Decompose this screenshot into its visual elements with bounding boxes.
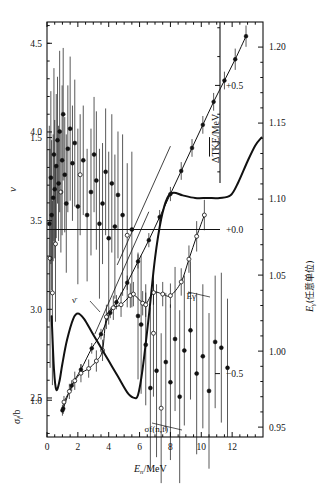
data-point — [113, 225, 117, 229]
data-point — [125, 281, 129, 285]
data-point — [53, 242, 57, 246]
eg-tick-label: 1.05 — [269, 271, 286, 281]
data-point — [151, 331, 155, 335]
data-point — [67, 389, 71, 393]
data-point — [76, 204, 80, 208]
e-gamma-bar-label-text: Ēγ — [187, 291, 196, 301]
data-point — [90, 346, 94, 350]
sigma-tick-label: 1.5 — [30, 133, 42, 143]
data-point — [219, 346, 223, 350]
left-lower-axis-title-tail: /b — [11, 409, 22, 417]
eg-tick-label: 0.95 — [269, 423, 286, 433]
x-tick-label: 0 — [45, 442, 50, 452]
data-point — [188, 328, 192, 332]
data-point — [92, 153, 96, 157]
right-axis-title: Eγ(任意单位) — [299, 260, 317, 312]
data-point — [139, 323, 143, 327]
left-upper-axis-title-text: ν — [6, 187, 18, 192]
data-point — [99, 332, 103, 336]
data-point — [161, 292, 165, 296]
data-point — [68, 127, 72, 131]
data-point — [178, 395, 182, 399]
data-point — [190, 146, 194, 150]
data-point — [50, 291, 54, 295]
sigma-tick-label: 1.0 — [30, 396, 42, 406]
nu-tick-label: 4.5 — [30, 39, 42, 49]
data-point — [49, 176, 53, 180]
data-point — [73, 379, 77, 383]
data-point — [94, 179, 98, 183]
inner-right-axis-title-tail: /MeV — [210, 114, 221, 137]
eg-tick-label: 1.20 — [269, 42, 286, 52]
data-point — [159, 406, 163, 410]
x-tick-label: 2 — [75, 442, 80, 452]
eg-tick-label: 1.15 — [269, 118, 286, 128]
data-point — [94, 359, 98, 363]
data-point — [168, 380, 172, 384]
right-axis-title-e: E — [304, 306, 315, 312]
data-point — [147, 238, 151, 242]
dtke-tick-label: −0.5 — [226, 369, 243, 379]
data-point — [78, 173, 82, 177]
data-point — [233, 57, 237, 61]
data-point — [179, 169, 183, 173]
eg-tick-label: 1.10 — [269, 194, 286, 204]
data-point — [179, 280, 183, 284]
plot-canvas: 0246810124.54.03.53.02.51.51.0+0.5+0.0−0… — [0, 0, 320, 486]
x-axis-title: En/MeV — [134, 458, 167, 476]
data-point — [115, 300, 119, 304]
right-axis-title-sub: γ — [309, 303, 316, 306]
x-tick-label: 6 — [137, 442, 142, 452]
data-point — [61, 407, 65, 411]
left-lower-axis-title-sigma: σ — [11, 419, 22, 424]
nu-tick-label: 3.5 — [30, 216, 42, 226]
x-tick-label: 12 — [227, 442, 237, 452]
data-point — [87, 367, 91, 371]
data-point — [202, 213, 206, 217]
data-point — [226, 366, 230, 370]
data-point — [52, 153, 56, 157]
data-point — [116, 193, 120, 197]
data-point — [155, 369, 159, 373]
data-point — [61, 112, 65, 116]
data-point — [182, 349, 186, 353]
data-point — [79, 371, 83, 375]
inner-right-axis-title: ΔTKE/MeV — [205, 114, 223, 163]
data-point — [244, 34, 248, 38]
data-point — [168, 294, 172, 298]
data-point — [101, 202, 105, 206]
data-point — [66, 147, 70, 151]
data-point — [121, 213, 125, 217]
inner-right-axis-title-delta: Δ — [210, 157, 221, 163]
data-point — [85, 213, 89, 217]
data-point — [144, 303, 148, 307]
data-point — [119, 303, 123, 307]
data-point — [97, 222, 101, 226]
data-point — [173, 337, 177, 341]
data-point — [104, 170, 108, 174]
data-point — [195, 234, 199, 238]
data-point — [110, 181, 114, 185]
data-point — [195, 372, 199, 376]
data-point — [107, 236, 111, 240]
left-lower-axis-title: σf/b — [6, 409, 24, 424]
sigma-f-nf-label-text: σf(n,f) — [144, 424, 168, 434]
data-point — [81, 158, 85, 162]
data-point — [207, 389, 211, 393]
left-lower-axis-title-sub: f — [16, 417, 23, 419]
dtke-tick-label: +0.0 — [226, 225, 243, 235]
x-tick-label: 4 — [106, 442, 111, 452]
dtke-tick-label: +0.5 — [226, 81, 243, 91]
data-point — [164, 360, 168, 364]
data-point — [104, 315, 108, 319]
eg-tick-label: 1.00 — [269, 347, 286, 357]
data-point — [125, 233, 129, 237]
data-point — [73, 141, 77, 145]
inner-right-axis-title-tke: TKE — [210, 137, 221, 156]
data-point — [213, 340, 217, 344]
data-point — [223, 79, 227, 83]
data-point — [62, 400, 66, 404]
data-point — [187, 257, 191, 261]
data-point — [136, 260, 140, 264]
data-point — [148, 386, 152, 390]
